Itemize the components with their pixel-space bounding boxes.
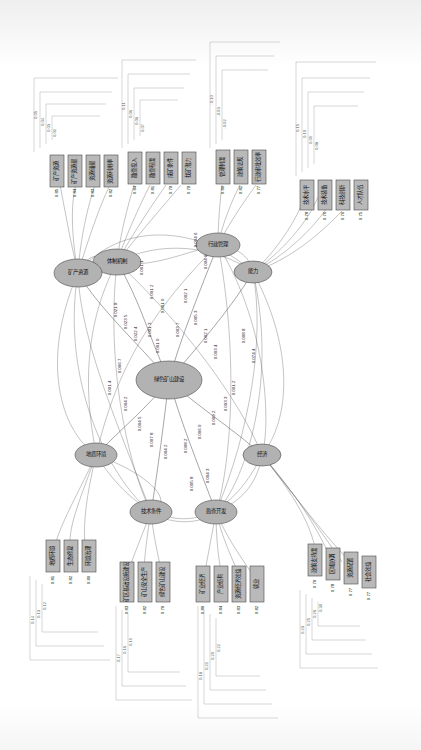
path-coefficient: 0.009 2 — [211, 410, 216, 425]
latent-node-label: 技术条件 — [141, 507, 162, 515]
path-coefficient: 0.004 6 — [193, 232, 198, 247]
loading-value: 0.83 — [124, 605, 129, 614]
path-coefficient: 0.003 4 — [213, 344, 218, 359]
error-value: 0.30 — [318, 603, 323, 612]
error-value: 0.11 — [121, 101, 126, 110]
latent-node: 能力 — [234, 261, 272, 283]
observed-label: 政策法规 — [236, 156, 244, 177]
loading-value: 0.89 — [200, 605, 205, 614]
path-coefficient: 0.006 7 — [117, 358, 122, 373]
loading-value: 0.81 — [150, 185, 155, 194]
path-coefficient: 0.004 3 — [205, 468, 210, 483]
loading-value: 0.83 — [90, 188, 95, 197]
error-value: -0.10 — [209, 95, 214, 105]
error-value: 0.25 — [306, 617, 311, 626]
loading-value: 0.78 — [304, 211, 309, 220]
path-coefficient: 0.001 0 — [160, 298, 165, 313]
loading-value: 0.77 — [366, 591, 371, 600]
path-coefficient: 0.022 4 — [133, 326, 138, 341]
latent-node-label: 经济 — [257, 450, 268, 458]
path-coefficient: 0.002 1 — [183, 288, 188, 303]
observed-label: 生态修复 — [66, 545, 74, 566]
observed-label: 行政审批效率 — [254, 151, 262, 182]
latent-node: 地质环境 — [75, 443, 117, 467]
error-value: -0.03 — [216, 107, 221, 117]
observed-label: 就业 — [252, 578, 260, 589]
observed-label: 资源利用率 — [106, 158, 114, 184]
path-coefficient: 0.005 3 — [193, 310, 198, 325]
error-value: 0.21 — [204, 661, 209, 670]
observed-block: 矿区基础设施建设 0.83 矿山安全生产 0.82 绿色矿山建设 0.79 — [120, 561, 170, 614]
loading-value: 0.84 — [132, 185, 137, 194]
loading-value: 0.79 — [160, 605, 165, 614]
observed-label: 管理制度 — [218, 156, 226, 177]
path-coefficient: 0.001 2 — [149, 284, 154, 299]
latent-node: 矿产资源 — [54, 259, 102, 287]
error-value: 0.06 — [128, 109, 133, 118]
observed-label: 勘查投入 — [130, 157, 138, 178]
observed-label: 矿产资源 — [52, 160, 60, 181]
error-value: 0.15 — [295, 123, 300, 132]
observed-label: 技术装备 — [320, 184, 328, 205]
observed-label: 政策支持度 — [310, 547, 318, 573]
error-value: 0.23 — [300, 625, 305, 634]
latent-node: 勘查开发 — [195, 500, 237, 524]
observed-label: 产业结构 — [216, 573, 224, 594]
error-value: 0.08 — [314, 141, 319, 150]
loading-value: 0.79 — [186, 185, 191, 194]
path-coefficient: 0.006 0 — [197, 424, 202, 439]
error-value: 0.20 — [210, 651, 215, 660]
error-value: 0.02 — [52, 128, 57, 137]
observed-block: 矿业经济 0.89 产业结构 0.84 资源经济效益 0.83 就业 0.82 — [196, 566, 264, 614]
loading-value: 0.79 — [312, 579, 317, 588]
path-coefficient: 0.021 8 — [113, 302, 118, 317]
observed-label: 勘查程度 — [148, 157, 156, 178]
loading-value: 0.75 — [358, 211, 363, 220]
observed-label: 资源配置 — [346, 557, 354, 578]
observed-label: 科技创新 — [338, 184, 346, 205]
error-value: 0.18 — [198, 671, 203, 680]
loading-value: 0.81 — [50, 575, 55, 584]
path-coefficient: 0.001 1 — [139, 260, 144, 275]
error-value: 0.26 — [312, 609, 317, 618]
path-coefficient: 0.002 1 — [203, 328, 208, 343]
observed-label: 绿色矿山建设 — [158, 566, 166, 597]
latent-node: 经济 — [243, 444, 281, 466]
latent-node-label: 行政管理 — [208, 240, 229, 248]
observed-label: 区域协调 — [328, 554, 336, 574]
sem-path-diagram: 体制机制 行政管理 能力 矿产资源 绿色矿山建设 地质环境 — [0, 0, 421, 750]
path-coefficient: 0.003 7 — [175, 322, 180, 337]
error-value: 0.19 — [128, 637, 133, 646]
observed-label: 人才队伍 — [356, 184, 364, 205]
error-value: 0.17 — [116, 653, 121, 662]
path-coefficient: 0.004 5 — [137, 416, 142, 431]
error-value: 0.04 — [40, 117, 45, 126]
loading-value: 0.78 — [330, 583, 335, 592]
error-value: 0.07 — [140, 123, 145, 132]
observed-label: 矿产资源量 — [70, 158, 78, 184]
latent-node-label: 地质环境 — [86, 450, 107, 458]
loading-value: 0.82 — [238, 185, 243, 194]
loading-value: 0.83 — [236, 605, 241, 614]
latent-node-label: 勘查开发 — [206, 507, 227, 515]
loading-value: 0.77 — [256, 185, 261, 194]
error-value: 0.10 — [302, 129, 307, 138]
path-coefficient: 0.003 3 — [223, 396, 228, 411]
figure-root: 体制机制 行政管理 能力 矿产资源 绿色矿山建设 地质环境 — [0, 0, 421, 750]
loading-value: 0.85 — [54, 188, 59, 197]
error-value: 0.05 — [33, 110, 38, 119]
latent-node-label: 体制机制 — [107, 257, 127, 265]
observed-label: 资源经济效益 — [234, 568, 242, 599]
path-coefficient: 0.008 8 — [241, 328, 246, 343]
loading-value: 0.76 — [340, 211, 345, 220]
loading-value: 0.82 — [108, 188, 113, 197]
loading-value: 0.84 — [218, 605, 223, 614]
observed-label: 矿山安全生产 — [140, 567, 148, 597]
observed-label: 社会效益 — [364, 561, 372, 582]
error-value: 0.14 — [30, 615, 35, 624]
observed-label: 矿区基础设施建设 — [122, 561, 130, 602]
observed-block: 勘查投入 0.84 勘查程度 0.81 成矿条件 0.79 找矿潜力 0.79 — [128, 152, 196, 194]
observed-label: 找矿潜力 — [184, 158, 192, 178]
observed-block: 政策支持度 0.79 区域协调 0.78 资源配置 0.77 社会效益 0.77 — [308, 544, 376, 600]
error-value: 0.16 — [122, 645, 127, 654]
